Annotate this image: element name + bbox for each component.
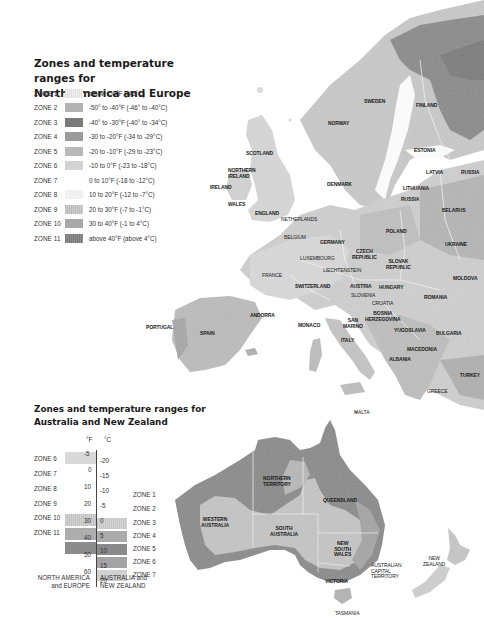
label-lithuania: LITHUANIA xyxy=(403,186,429,192)
zone-range: above 40°F (above 4°C) xyxy=(89,235,157,242)
label-russia-kaliningrad: RUSSIA xyxy=(401,197,419,203)
zone-swatch xyxy=(65,132,83,141)
label-turkey: TURKEY xyxy=(460,373,480,379)
label-estonia: ESTONIA xyxy=(414,148,435,154)
label-belgium: BELGIUM xyxy=(284,235,306,241)
au-zone-label: ZONE 5 xyxy=(133,545,156,552)
label-germany: GERMANY xyxy=(320,240,345,246)
label-wales: WALES xyxy=(228,202,245,208)
label-liechtenstein: LIECHTENSTEIN xyxy=(323,268,361,274)
label-san-marino-line2: MARINO xyxy=(343,324,363,330)
zone-label: ZONE 9 xyxy=(34,206,65,213)
label-macedonia: MACEDONIA xyxy=(407,347,437,353)
label-england: ENGLAND xyxy=(255,211,279,217)
zone-range: below -50°F (-46°C) xyxy=(89,90,145,97)
zone-swatch xyxy=(65,176,83,185)
legend-row-zone-1: ZONE 1 below -50°F (-46°C) xyxy=(34,86,167,101)
zone-range: 10 to 20°F (-12 to -7°C) xyxy=(89,191,155,198)
label-slovenia: SLOVENIA xyxy=(351,293,375,299)
scale-footer: NORTH AMERICA and EUROPE AUSTRALIA and N… xyxy=(34,574,194,594)
label-malta: MALTA xyxy=(354,410,369,416)
legend-row-zone-3: ZONE 3 -40° to -30°F (-40° to -34°C) xyxy=(34,115,167,130)
label-slovak-republic: SLOVAK REPUBLIC xyxy=(386,259,411,270)
label-moldova: MOLDOVA xyxy=(453,276,477,282)
label-queensland: QUEENSLAND xyxy=(323,498,357,504)
footer-na-line2: and EUROPE xyxy=(34,582,90,590)
label-albania: ALBANIA xyxy=(389,357,411,363)
label-spain: SPAIN xyxy=(200,331,214,337)
c-tick: -5 xyxy=(100,502,106,509)
au-zone-label: ZONE 3 xyxy=(133,519,156,526)
na-zone-label: ZONE 8 xyxy=(34,485,57,492)
label-scotland: SCOTLAND xyxy=(246,151,273,157)
label-denmark: DENMARK xyxy=(327,182,352,188)
label-new-zealand: NEW ZEALAND xyxy=(423,556,445,567)
label-switzerland: SWITZERLAND xyxy=(295,284,330,290)
label-tasmania: TASMANIA xyxy=(335,611,359,617)
australia-landmass xyxy=(175,420,470,604)
footer-au-nz: AUSTRALIA and NEW ZEALAND xyxy=(100,574,147,590)
zone-swatch xyxy=(65,219,83,228)
label-australian-capital-territory: AUSTRALIAN CAPITAL TERRITORY xyxy=(371,563,401,580)
label-yugoslavia: YUGOSLAVIA xyxy=(394,328,426,334)
legend-row-zone-8: ZONE 8 10 to 20°F (-12 to -7°C) xyxy=(34,188,167,203)
footer-au-line2: NEW ZEALAND xyxy=(100,582,147,590)
na-band-zone-10 xyxy=(65,528,96,540)
label-norway: NORWAY xyxy=(328,121,349,127)
label-netherlands: NETHERLANDS xyxy=(281,217,317,223)
footer-na-line1: NORTH AMERICA xyxy=(34,574,90,582)
label-northern-ireland: NORTHERN IRELAND xyxy=(228,168,256,179)
zone-range: -40° to -30°F (-40° to -34°C) xyxy=(89,119,167,126)
legend-row-zone-6: ZONE 6 -10 to 0°F (-23 to -18°C) xyxy=(34,159,167,174)
zone-label: ZONE 7 xyxy=(34,177,65,184)
label-poland: POLAND xyxy=(386,229,407,235)
na-zone-label: ZONE 9 xyxy=(34,500,57,507)
f-tick: 0 xyxy=(88,466,92,473)
label-belarus: BELARUS xyxy=(442,208,465,214)
label-portugal: PORTUGAL xyxy=(146,325,173,331)
legend-row-zone-7: ZONE 7 0 to 10°F (-18 to -12°C) xyxy=(34,173,167,188)
c-tick: -20 xyxy=(100,457,109,464)
zone-label: ZONE 1 xyxy=(34,90,65,97)
label-bosnia-herzegovina: BOSNIA HERZEGOVINA xyxy=(365,311,401,322)
label-finland: FINLAND xyxy=(416,103,437,109)
c-tick: 10 xyxy=(100,547,107,554)
c-tick: 15 xyxy=(100,562,107,569)
label-south-australia: SOUTH AUSTRALIA xyxy=(270,526,298,537)
zone-swatch xyxy=(65,103,83,112)
zone-swatch xyxy=(65,190,83,199)
zone-label: ZONE 3 xyxy=(34,119,65,126)
label-slovak-line2: REPUBLIC xyxy=(386,265,411,271)
na-zone-label: ZONE 6 xyxy=(34,455,57,462)
label-romania: ROMANIA xyxy=(424,295,447,301)
zone-label: ZONE 11 xyxy=(34,235,65,242)
c-tick: -10 xyxy=(100,487,109,494)
europe-landmass xyxy=(172,0,484,410)
label-victoria: VICTORIA xyxy=(325,579,348,585)
f-tick: 40 xyxy=(84,534,91,541)
zone-swatch xyxy=(65,234,83,243)
temperature-scale-legend: °F °C -5 0 10 20 30 40 50 60 -20 -15 -10… xyxy=(34,436,194,586)
label-san-marino: SAN MARINO xyxy=(343,318,363,329)
zone-range: -30 to -20°F (-34 to -29°C) xyxy=(89,133,162,140)
au-zone-label: ZONE 6 xyxy=(133,558,156,565)
legend-row-zone-10: ZONE 10 30 to 40°F (-1 to 4°C) xyxy=(34,217,167,232)
label-wa-line2: AUSTRALIA xyxy=(201,523,229,529)
zone-label: ZONE 8 xyxy=(34,191,65,198)
f-tick: 20 xyxy=(84,500,91,507)
f-tick: 30 xyxy=(84,517,91,524)
zone-range: -20 to -10°F (-29 to -23°C) xyxy=(89,148,162,155)
au-zone-label: ZONE 2 xyxy=(133,505,156,512)
zone-label: ZONE 4 xyxy=(34,133,65,140)
label-latvia: LATVIA xyxy=(426,170,443,176)
zone-swatch xyxy=(65,147,83,156)
c-tick: 5 xyxy=(100,532,104,539)
label-bulgaria: BULGARIA xyxy=(436,331,462,337)
label-new-south-wales: NEW SOUTH WALES xyxy=(334,541,351,558)
c-tick: 0 xyxy=(100,517,104,524)
legend-row-zone-4: ZONE 4 -30 to -20°F (-34 to -29°C) xyxy=(34,130,167,145)
celsius-unit: °C xyxy=(104,436,111,443)
zone-label: ZONE 6 xyxy=(34,162,65,169)
scale-axis xyxy=(96,450,97,587)
australia-legend-title-line2: Australia and New Zealand xyxy=(34,416,214,429)
